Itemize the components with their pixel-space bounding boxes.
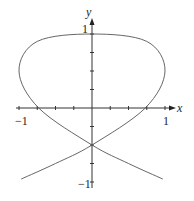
- chart: x y −1 1 1 −1: [0, 0, 194, 201]
- y-tick-label-min: −1: [78, 177, 91, 191]
- y-tick-label-max: 1: [82, 22, 88, 36]
- x-axis-arrow-icon: [169, 106, 176, 111]
- plot-svg: x y −1 1 1 −1: [0, 0, 194, 201]
- y-axis-label: y: [85, 5, 92, 19]
- x-tick-label-min: −1: [15, 114, 28, 128]
- x-axis-label: x: [176, 101, 183, 115]
- x-tick-label-max: 1: [163, 114, 169, 128]
- y-axis-arrow-icon: [90, 18, 95, 25]
